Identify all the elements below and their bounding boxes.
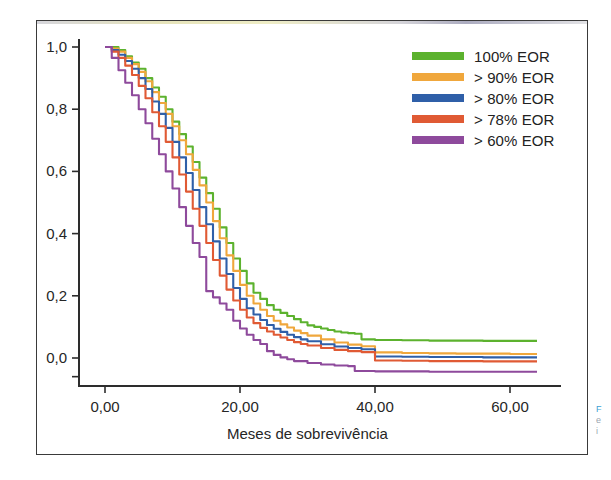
y-tick-label: 0,8 — [46, 100, 67, 117]
legend-label: > 78% EOR — [474, 111, 555, 128]
legend-item[interactable]: > 80% EOR — [412, 88, 572, 108]
caption-fragment: F e i — [596, 404, 611, 437]
figure-root: 0,00,20,40,60,81,00,0020,0040,0060,00Mes… — [0, 0, 611, 480]
legend-item[interactable]: > 78% EOR — [412, 109, 572, 129]
caption-line-2: e — [596, 415, 611, 426]
caption-line-1: F — [596, 404, 611, 415]
legend-swatch-icon — [412, 52, 464, 60]
y-tick-label: 0,4 — [46, 225, 67, 242]
legend-label: > 90% EOR — [474, 69, 555, 86]
x-tick-label: 20,00 — [221, 398, 259, 415]
x-axis-title: Meses de sobrevivência — [227, 425, 389, 442]
y-tick-label: 0,6 — [46, 162, 67, 179]
caption-line-3: i — [596, 426, 611, 437]
x-tick-label: 0,00 — [90, 398, 119, 415]
legend-item[interactable]: 100% EOR — [412, 46, 572, 66]
legend-item[interactable]: > 60% EOR — [412, 130, 572, 150]
legend-item[interactable]: > 90% EOR — [412, 67, 572, 87]
y-tick-label: 0,2 — [46, 287, 67, 304]
legend-swatch-icon — [412, 73, 464, 81]
legend-swatch-icon — [412, 115, 464, 123]
legend-swatch-icon — [412, 136, 464, 144]
y-tick-label: 0,0 — [46, 349, 67, 366]
legend-label: 100% EOR — [474, 48, 550, 65]
legend-label: > 60% EOR — [474, 132, 555, 149]
y-tick-label: 1,0 — [46, 38, 67, 55]
chart-legend: 100% EOR> 90% EOR> 80% EOR> 78% EOR> 60%… — [412, 46, 572, 151]
x-tick-label: 40,00 — [356, 398, 394, 415]
legend-swatch-icon — [412, 94, 464, 102]
legend-label: > 80% EOR — [474, 90, 555, 107]
x-tick-label: 60,00 — [491, 398, 529, 415]
